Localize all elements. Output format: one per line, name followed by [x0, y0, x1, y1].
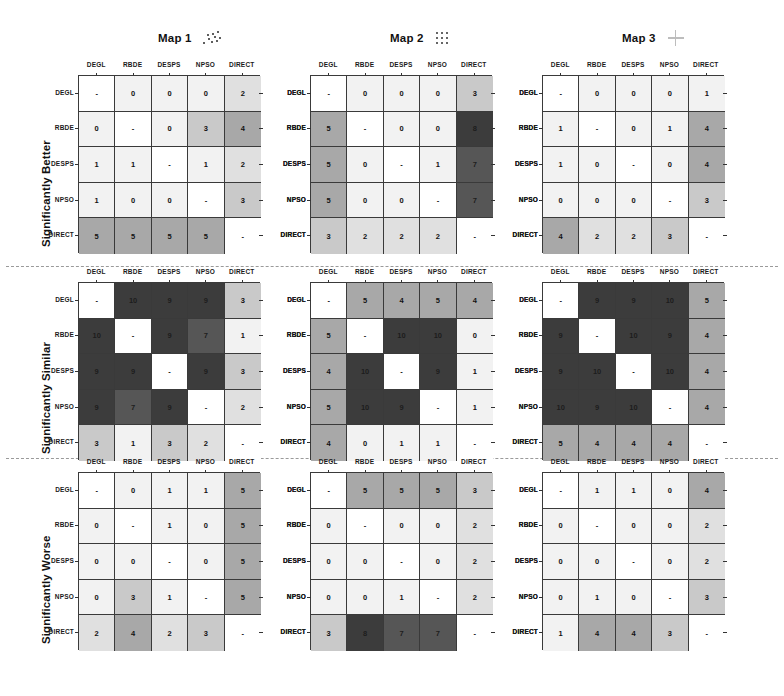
heatmap-cell: 0 — [579, 76, 615, 112]
heatmap-cell: - — [543, 76, 579, 112]
row-tick — [539, 442, 543, 443]
row-tick — [307, 164, 311, 165]
heatmap-cell: 0 — [347, 580, 383, 616]
row-tick-right — [723, 200, 727, 201]
heatmap-cell: 9 — [188, 283, 224, 319]
heatmap-cell: 4 — [225, 112, 261, 148]
column-header-rbde: RBDE — [114, 268, 150, 275]
heatmap-cell: 3 — [652, 615, 688, 651]
row-tick — [539, 525, 543, 526]
heatmap-cell: 4 — [689, 354, 725, 390]
heatmap-cell: 9 — [152, 390, 188, 426]
heatmap-cell: - — [652, 580, 688, 616]
row-tick — [539, 128, 543, 129]
heatmap-cell: 1 — [543, 147, 579, 183]
row-tick-right — [259, 597, 263, 598]
row-tick — [539, 632, 543, 633]
row-tick — [75, 632, 79, 633]
heatmap-cell: 0 — [347, 147, 383, 183]
row-tick — [75, 407, 79, 408]
heatmap-cell: 0 — [616, 112, 652, 148]
heatmap-cell: 1 — [152, 509, 188, 545]
heatmap-cell: 5 — [225, 544, 261, 580]
heatmap-cell: 0 — [152, 183, 188, 219]
column-header-direct: DIRECT — [456, 458, 492, 465]
heatmap-cell: 0 — [79, 112, 115, 148]
heatmap-cell: 2 — [225, 147, 261, 183]
row-tick — [75, 597, 79, 598]
heatmap-grid: -54545-10100410-915109-14011- — [310, 282, 492, 460]
heatmap-cell: 1 — [79, 147, 115, 183]
heatmap-cell: 9 — [543, 354, 579, 390]
row-tick-right — [491, 335, 495, 336]
row-tick-right — [491, 200, 495, 201]
heatmap-cell: 0 — [652, 76, 688, 112]
row-label-direct: DIRECT — [34, 231, 74, 238]
heatmap-cell: 0 — [347, 76, 383, 112]
column-header-degl: DEGL — [542, 61, 578, 68]
heatmap-cell: 0 — [384, 183, 420, 219]
row-tick — [75, 200, 79, 201]
row-tick — [539, 164, 543, 165]
row-label-right-direct: DIRECT — [498, 438, 538, 445]
heatmap-cell: 5 — [79, 218, 115, 254]
heatmap-cell: 2 — [347, 218, 383, 254]
row-tick-right — [491, 597, 495, 598]
row-label-right-desps: DESPS — [498, 160, 538, 167]
heatmap-cell: - — [420, 183, 456, 219]
comparison-matrix-figure: Map 1Map 2Map 3Significantly BetterSigni… — [0, 0, 784, 696]
heatmap-cell: - — [616, 147, 652, 183]
map-title-label: Map 3 — [622, 32, 656, 44]
row-label-right-degl: DEGL — [266, 89, 306, 96]
column-header-npso: NPSO — [651, 458, 687, 465]
heatmap-cell: 9 — [579, 283, 615, 319]
heatmap-cell: 5 — [384, 473, 420, 509]
row-tick — [307, 235, 311, 236]
row-tick-right — [259, 407, 263, 408]
column-header-rbde: RBDE — [114, 61, 150, 68]
column-header-desps: DESPS — [383, 458, 419, 465]
row-tick-right — [723, 407, 727, 408]
heatmap-cell: 1 — [384, 580, 420, 616]
heatmap-cell: 4 — [689, 147, 725, 183]
heatmap-cell: 1 — [579, 580, 615, 616]
row-tick — [75, 93, 79, 94]
heatmap-cell: - — [347, 509, 383, 545]
heatmap-cell: 0 — [152, 76, 188, 112]
column-header-rbde: RBDE — [578, 458, 614, 465]
heatmap-cell: - — [579, 112, 615, 148]
heatmap-cell: - — [347, 112, 383, 148]
row-tick — [539, 200, 543, 201]
row-tick-right — [259, 442, 263, 443]
heatmap-cell: - — [543, 283, 579, 319]
row-tick-right — [259, 128, 263, 129]
row-label-npso: NPSO — [34, 593, 74, 600]
heatmap-cell: 7 — [115, 390, 151, 426]
heatmap-cell: 0 — [579, 147, 615, 183]
heatmap-cell: 0 — [311, 544, 347, 580]
row-tick-right — [259, 300, 263, 301]
heatmap-cell: 1 — [115, 147, 151, 183]
heatmap-cell: 4 — [579, 425, 615, 461]
row-label-right-rbde: RBDE — [498, 331, 538, 338]
row-label-right-desps: DESPS — [498, 367, 538, 374]
row-tick-right — [259, 561, 263, 562]
row-tick — [75, 235, 79, 236]
heatmap-cell: 0 — [652, 473, 688, 509]
row-tick — [539, 371, 543, 372]
heatmap-cell: 3 — [457, 76, 493, 112]
heatmap-cell: 3 — [152, 425, 188, 461]
heatmap-cell: 0 — [115, 76, 151, 112]
heatmap-cell: - — [152, 544, 188, 580]
column-header-row: DEGLRBDEDESPSNPSODIRECT — [78, 61, 260, 74]
heatmap-cell: - — [311, 76, 347, 112]
row-tick-right — [491, 561, 495, 562]
map-title-2: Map 2 — [390, 28, 455, 48]
column-header-desps: DESPS — [151, 458, 187, 465]
heatmap-cell: - — [79, 473, 115, 509]
row-label-right-rbde: RBDE — [266, 124, 306, 131]
row-tick — [307, 300, 311, 301]
heatmap-cell: 10 — [115, 283, 151, 319]
heatmap-cell: - — [79, 76, 115, 112]
row-tick-right — [491, 235, 495, 236]
